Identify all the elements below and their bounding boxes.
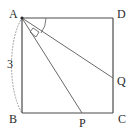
vertex-label-c: C — [118, 113, 126, 125]
vertex-dot-a — [20, 16, 23, 19]
segment-aq — [22, 18, 113, 78]
measure-label-side-ab: 3 — [7, 58, 13, 70]
vertex-label-a: A — [9, 8, 18, 20]
geometry-figure: A D C B Q P 3 — [0, 0, 137, 134]
vertex-label-d: D — [117, 8, 126, 20]
vertex-label-b: B — [9, 113, 17, 125]
point-label-p: P — [79, 117, 86, 129]
point-label-q: Q — [117, 75, 126, 87]
dotted-arc-ab — [12, 18, 23, 113]
